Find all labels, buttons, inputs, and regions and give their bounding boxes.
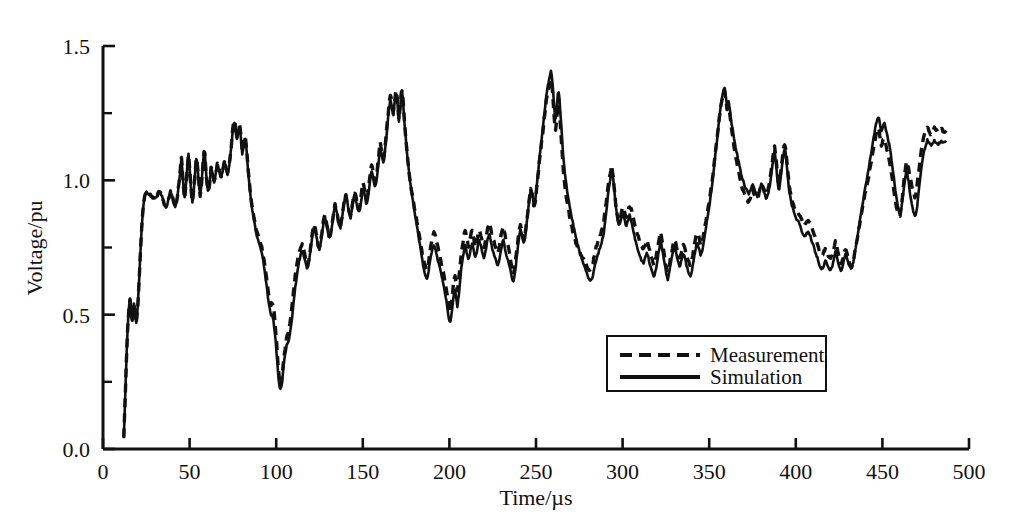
chart-figure: 050100150200250300350400450500 0.00.51.0…	[0, 0, 1023, 524]
x-axis-tick-labels: 050100150200250300350400450500	[98, 459, 986, 484]
x-axis-title: Time/µs	[499, 485, 572, 510]
y-axis-title: Voltage/pu	[22, 201, 47, 296]
y-tick-label: 1.5	[63, 34, 91, 59]
y-axis-tick-labels: 0.00.51.01.5	[63, 34, 91, 462]
y-tick-label: 0.5	[63, 303, 91, 328]
x-tick-label: 350	[693, 459, 726, 484]
axis-lines	[103, 46, 969, 449]
y-tick-label: 0.0	[63, 437, 91, 462]
chart-plot-area: 050100150200250300350400450500 0.00.51.0…	[0, 0, 1023, 524]
legend: Measurement Simulation	[607, 336, 826, 391]
x-tick-label: 0	[98, 459, 109, 484]
y-tick-label: 1.0	[63, 168, 91, 193]
x-tick-label: 500	[953, 459, 986, 484]
x-tick-label: 100	[260, 459, 293, 484]
x-tick-label: 400	[779, 459, 812, 484]
legend-label-measurement: Measurement	[710, 343, 824, 367]
y-axis-ticks	[103, 46, 115, 449]
x-tick-label: 200	[433, 459, 466, 484]
x-tick-label: 50	[179, 459, 201, 484]
x-tick-label: 300	[606, 459, 639, 484]
x-tick-label: 250	[520, 459, 553, 484]
x-tick-label: 450	[866, 459, 899, 484]
x-axis-ticks	[103, 438, 969, 449]
legend-label-simulation: Simulation	[710, 365, 803, 389]
x-tick-label: 150	[346, 459, 379, 484]
